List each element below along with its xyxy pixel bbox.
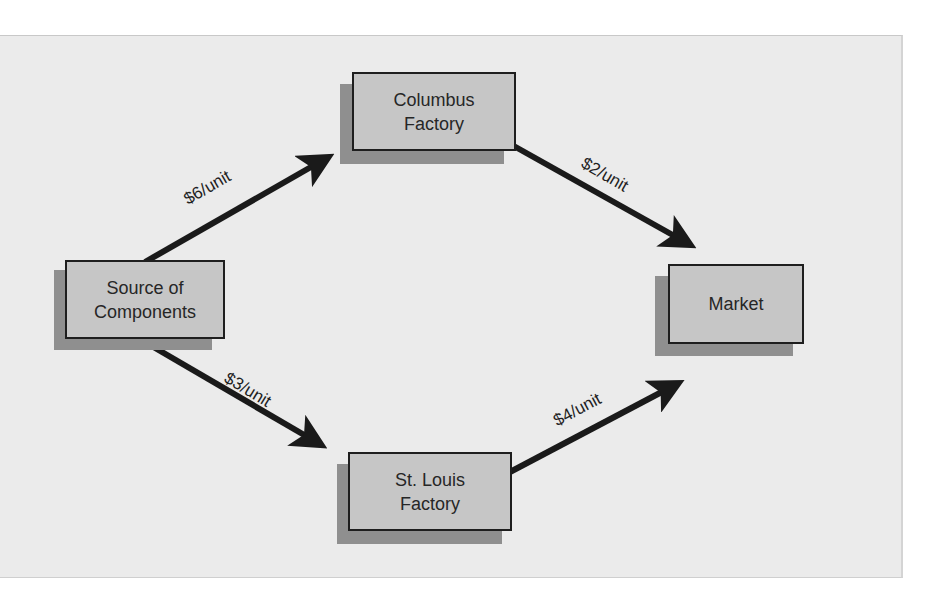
node-box: Columbus Factory bbox=[352, 72, 516, 151]
node-box: Market bbox=[668, 264, 804, 344]
node-label-line2: Components bbox=[94, 300, 196, 324]
node-source-of-components: Source of Components bbox=[54, 260, 226, 352]
node-label-line1: St. Louis bbox=[395, 468, 465, 492]
node-label: Market bbox=[708, 292, 763, 316]
node-box: St. Louis Factory bbox=[348, 452, 512, 531]
node-label-line1: Source of bbox=[94, 276, 196, 300]
node-label-line2: Factory bbox=[393, 112, 474, 136]
node-market: Market bbox=[655, 264, 805, 356]
node-columbus-factory: Columbus Factory bbox=[340, 72, 516, 164]
node-label-line2: Factory bbox=[395, 492, 465, 516]
arrow-source-to-columbus bbox=[145, 159, 325, 262]
node-box: Source of Components bbox=[65, 260, 225, 339]
node-st-louis-factory: St. Louis Factory bbox=[337, 452, 513, 545]
node-label-line1: Columbus bbox=[393, 88, 474, 112]
